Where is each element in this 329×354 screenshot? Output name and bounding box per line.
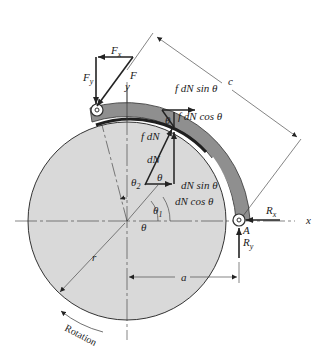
label-rx: Rx <box>265 204 277 219</box>
label-r: r <box>92 251 97 263</box>
brake-diagram: Fx Fy F y f dN sin θ f dN cos θ θ f dN d… <box>0 0 329 354</box>
c-dimension-line-1 <box>157 37 222 83</box>
c-ext-line-top <box>127 33 153 70</box>
label-c: c <box>228 75 233 87</box>
label-dn: dN <box>147 153 161 165</box>
label-ry: Ry <box>242 236 254 251</box>
label-a-pin: A <box>242 224 250 236</box>
c-dimension-line-2 <box>232 90 297 137</box>
label-f-dn-sin: f dN sin θ <box>175 82 218 94</box>
label-fy: Fy <box>82 71 94 86</box>
label-f-dn: f dN <box>141 130 160 142</box>
label-f: F <box>129 69 137 81</box>
label-y-axis: y <box>124 80 130 92</box>
label-rotation: Rotation <box>63 322 99 348</box>
label-theta: θ <box>141 221 147 233</box>
label-f-dn-cos: f dN cos θ <box>178 110 223 122</box>
label-theta-mid: θ <box>157 171 163 183</box>
label-x-axis: x <box>305 214 311 226</box>
label-dn-sin: dN sin θ <box>181 179 218 191</box>
label-a: a <box>181 271 187 283</box>
label-theta-top: θ <box>165 114 171 126</box>
label-dn-cos: dN cos θ <box>175 195 214 207</box>
